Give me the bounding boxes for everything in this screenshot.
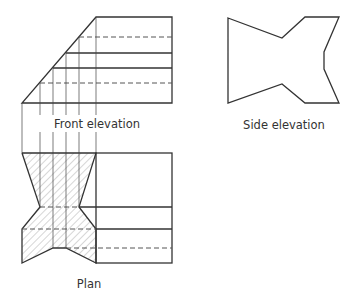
projection-drawing: Front elevation Side elevation Plan <box>0 0 357 305</box>
front-elevation-outline <box>22 17 172 103</box>
side-elevation-label: Side elevation <box>243 118 325 132</box>
plan-label: Plan <box>77 277 101 291</box>
front-elevation-label: Front elevation <box>54 117 140 131</box>
plan-outline <box>96 153 172 263</box>
side-elevation <box>228 17 339 103</box>
plan-view <box>22 153 172 263</box>
side-elevation-outline <box>228 17 339 103</box>
front-elevation <box>22 17 172 103</box>
projection-lines <box>22 17 96 153</box>
section-hatch <box>22 153 96 263</box>
